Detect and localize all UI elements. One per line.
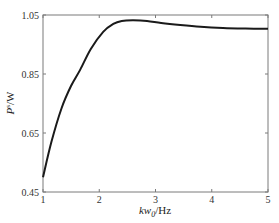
y-tick-label: 0.65 [22,128,40,139]
y-axis-label: Ps/W [4,91,16,116]
x-tick-label: 1 [41,194,46,205]
chart: 12345 0.450.650.851.05 kw0/Hz Ps/W [0,0,279,223]
x-tick-label: 4 [209,194,214,205]
x-axis-label: kw0/Hz [139,204,171,219]
x-tick-label: 2 [97,194,102,205]
x-tick-label: 5 [266,194,271,205]
y-tick-label: 1.05 [22,10,40,21]
plot-area [43,15,268,192]
y-tick-label: 0.85 [22,69,40,80]
y-tick-label: 0.45 [22,187,40,198]
